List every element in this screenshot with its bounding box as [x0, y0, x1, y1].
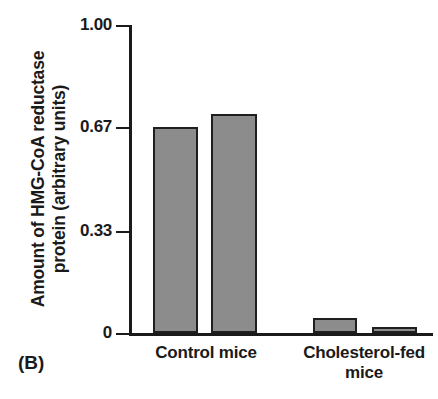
y-axis-title-line-1: Amount of HMG-CoA reductase: [28, 51, 49, 307]
x-axis-category-label-line: Control mice: [135, 343, 277, 363]
panel-label: (B): [18, 352, 44, 374]
bar: [313, 318, 357, 333]
y-tick-mark: [116, 231, 129, 233]
x-axis-category-label: Control mice: [135, 343, 277, 363]
y-tick-label: 1.00: [80, 15, 112, 35]
x-axis-category-label-line: mice: [295, 363, 433, 383]
y-tick-label: 0.33: [80, 221, 112, 241]
y-axis-title-line-2: protein (arbitrary units): [49, 85, 70, 274]
x-axis-category-label-line: Cholesterol-fed: [295, 343, 433, 363]
x-axis-line: [129, 333, 433, 336]
y-tick-label: 0.67: [80, 117, 112, 137]
y-tick-mark: [116, 127, 129, 129]
y-axis-line: [129, 25, 132, 333]
figure-panel-b: Amount of HMG-CoA reductase protein (arb…: [0, 0, 438, 399]
bar: [372, 327, 417, 333]
bar: [211, 114, 257, 333]
y-tick-mark: [116, 333, 129, 335]
bar: [153, 127, 198, 333]
x-axis-category-label: Cholesterol-fedmice: [295, 343, 433, 384]
y-tick-mark: [116, 25, 129, 27]
plot-area: 00.330.671.00 Control miceCholesterol-fe…: [129, 25, 433, 333]
y-tick-label: 0: [103, 323, 112, 343]
y-axis-title: Amount of HMG-CoA reductase protein (arb…: [18, 14, 80, 344]
